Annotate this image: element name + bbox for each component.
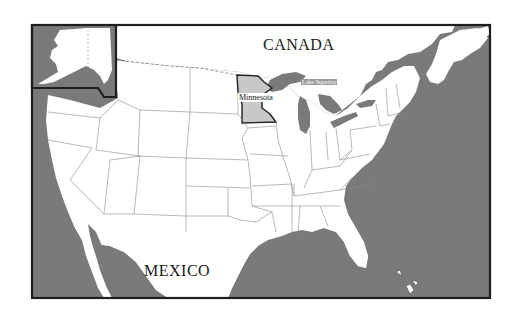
minnesota-label: Minnesota bbox=[238, 93, 274, 102]
alaska-inset bbox=[32, 25, 116, 97]
us-map bbox=[0, 0, 519, 320]
lake-superior-label: Lake Superior bbox=[301, 79, 337, 85]
canada-label: CANADA bbox=[263, 36, 334, 54]
mexico-label: MEXICO bbox=[144, 262, 210, 280]
